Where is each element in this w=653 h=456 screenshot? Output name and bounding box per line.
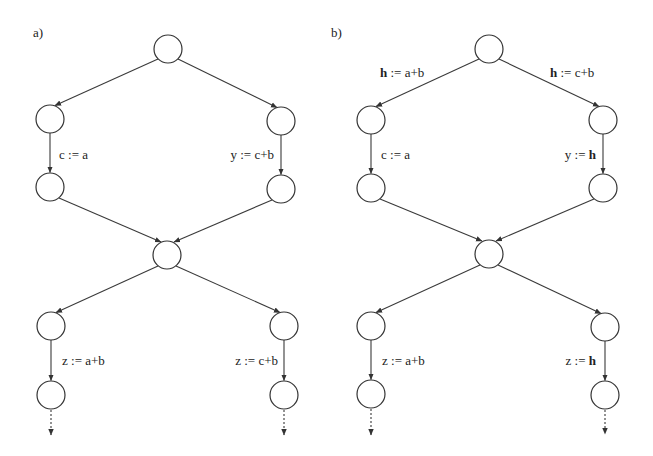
node-left3 — [357, 312, 385, 340]
expr: := c+b — [557, 65, 594, 80]
node-right4 — [270, 381, 298, 409]
node-left2 — [357, 174, 385, 202]
expr: := a+b — [387, 65, 424, 80]
node-left1 — [36, 105, 64, 133]
panel-b: b) — [331, 25, 619, 435]
node-left1 — [357, 106, 385, 134]
node-left2 — [36, 173, 64, 201]
edge-left2-mid — [59, 198, 161, 242]
node-right2 — [589, 174, 617, 202]
node-mid — [153, 241, 181, 269]
expr: c+b — [254, 147, 274, 162]
edge-label-y-assign: y := h — [565, 147, 597, 162]
edge-mid-left3 — [376, 265, 480, 313]
figure-canvas: a) — [0, 0, 653, 456]
edge-label-z-assign-right: z := h — [566, 353, 597, 368]
expr: c+b — [258, 353, 278, 368]
edge-label-y-assign: y := c+b — [230, 147, 274, 162]
panel-a-label: a) — [33, 25, 43, 40]
node-left3 — [37, 312, 65, 340]
edge-mid-right3 — [498, 265, 601, 314]
edge-left2-mid — [380, 199, 482, 241]
node-right4 — [591, 381, 619, 409]
edge-mid-right3 — [176, 266, 280, 313]
node-top — [475, 35, 503, 63]
node-left4 — [357, 380, 385, 408]
node-right2 — [267, 175, 295, 203]
edge-label-c-assign: c := a — [59, 147, 88, 162]
edge-label-z-assign-left: z := a+b — [382, 353, 425, 368]
edge-top-left1 — [55, 59, 158, 106]
assign-op: := — [571, 147, 588, 162]
node-left4 — [37, 381, 65, 409]
edge-label-c-assign: c := a — [381, 147, 410, 162]
assign-op: := — [571, 353, 588, 368]
edge-right2-mid — [496, 199, 594, 241]
node-right1 — [589, 106, 617, 134]
node-right3 — [270, 312, 298, 340]
panel-b-label: b) — [331, 25, 342, 40]
edge-label-z-assign-left: z := a+b — [62, 353, 105, 368]
assign-op: := — [241, 353, 258, 368]
edge-label-h-assign-left: h := a+b — [380, 65, 424, 80]
edge-mid-left3 — [56, 266, 158, 313]
var-h: h — [589, 147, 597, 162]
panel-a: a) — [33, 25, 298, 435]
var-h: h — [589, 353, 597, 368]
edge-top-right1 — [178, 59, 277, 108]
edge-right2-mid — [174, 200, 272, 242]
edge-label-z-assign-right: z := c+b — [235, 353, 278, 368]
node-right1 — [267, 107, 295, 135]
node-mid — [475, 240, 503, 268]
node-top — [154, 35, 182, 63]
edge-label-h-assign-right: h := c+b — [550, 65, 594, 80]
panel-b-labels: h := a+b h := c+b c := a y := h z := a+b… — [380, 65, 597, 368]
node-right3 — [591, 313, 619, 341]
assign-op: := — [237, 147, 254, 162]
